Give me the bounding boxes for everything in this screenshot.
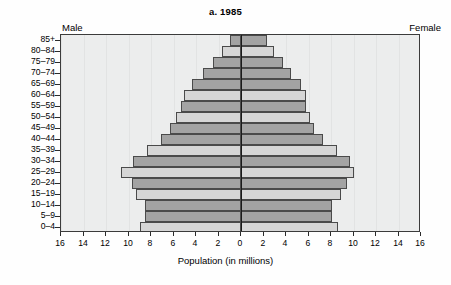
age-tick [55,51,60,52]
bar-female [241,178,347,189]
age-group-label: 40–44 [31,134,55,143]
age-group-label: 70–74 [31,68,55,77]
age-tick [55,172,60,173]
x-tick-label: 14 [73,238,93,248]
age-tick [55,106,60,107]
x-tick [150,232,151,236]
age-group-label: 60–64 [31,90,55,99]
bar-male [133,156,241,167]
bar-male [192,79,242,90]
bar-female [241,145,337,156]
x-tick [218,232,219,236]
x-tick [375,232,376,236]
bar-male [121,167,241,178]
x-tick-label: 10 [343,238,363,248]
x-tick-label: 8 [140,238,160,248]
age-tick [55,40,60,41]
x-tick [173,232,174,236]
pyramid-row [61,46,419,57]
age-group-label: 35–39 [31,145,55,154]
x-tick [83,232,84,236]
bar-male [136,189,241,200]
x-tick-label: 2 [208,238,228,248]
bar-female [241,90,306,101]
bar-female [241,57,283,68]
age-tick [55,73,60,74]
age-group-label: 65–69 [31,79,55,88]
age-group-label: 50–54 [31,112,55,121]
age-group-label: 80–84 [31,46,55,55]
pyramid-row [61,79,419,90]
x-tick-label: 12 [365,238,385,248]
male-side-label: Male [62,22,83,33]
age-tick [55,183,60,184]
bar-male [132,178,241,189]
x-tick-label: 4 [275,238,295,248]
x-axis-title: Population (in millions) [0,255,451,266]
age-tick [55,95,60,96]
pyramid-row [61,112,419,123]
age-group-label: 25–29 [31,167,55,176]
age-tick [55,216,60,217]
bar-female [241,189,341,200]
bar-male [176,112,241,123]
bar-female [241,156,350,167]
bar-male [184,90,241,101]
age-group-label: 5–9 [41,211,55,220]
age-tick [55,194,60,195]
age-group-label: 15–19 [31,189,55,198]
x-tick-label: 4 [185,238,205,248]
age-tick [55,161,60,162]
pyramid-row [61,156,419,167]
age-tick [55,150,60,151]
population-pyramid-chart: a. 1985 Male Female 85+80–8475–7970–7465… [0,0,451,285]
x-tick-label: 6 [163,238,183,248]
age-group-label: 45–49 [31,123,55,132]
bar-female [241,46,274,57]
x-tick [195,232,196,236]
pyramid-row [61,178,419,189]
bar-female [241,79,301,90]
bar-female [241,134,323,145]
x-tick-label: 0 [230,238,250,248]
bar-female [241,123,314,134]
bar-female [241,211,332,222]
x-tick [263,232,264,236]
age-tick [55,205,60,206]
pyramid-row [61,101,419,112]
x-tick [285,232,286,236]
x-tick [398,232,399,236]
age-group-label: 0–4 [41,222,55,231]
x-tick-label: 14 [388,238,408,248]
age-group-label: 85+ [40,35,55,44]
x-tick [330,232,331,236]
bar-male [161,134,241,145]
x-tick [60,232,61,236]
bar-male [222,46,241,57]
age-tick [55,139,60,140]
age-group-label: 75–79 [31,57,55,66]
bar-female [241,68,291,79]
pyramid-row [61,189,419,200]
x-tick-label: 8 [320,238,340,248]
bar-male [213,57,241,68]
x-tick [128,232,129,236]
chart-title: a. 1985 [0,6,451,17]
bar-male [145,211,241,222]
x-tick [240,232,241,236]
pyramid-row [61,90,419,101]
plot-area [60,34,420,232]
x-tick-label: 2 [253,238,273,248]
age-group-label: 20–24 [31,178,55,187]
age-tick [55,117,60,118]
bar-male [181,101,241,112]
bar-female [241,101,306,112]
age-group-label: 30–34 [31,156,55,165]
pyramid-row [61,200,419,211]
x-tick-label: 16 [50,238,70,248]
pyramid-row [61,35,419,46]
bar-female [241,200,332,211]
pyramid-row [61,68,419,79]
pyramid-row [61,145,419,156]
pyramid-row [61,134,419,145]
